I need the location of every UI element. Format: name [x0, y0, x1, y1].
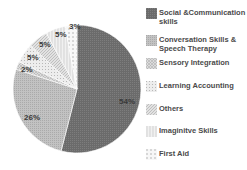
slice-label-social-communication: 54%	[119, 97, 135, 106]
legend-item-imaginitve-skills: Imaginitve Skills	[146, 126, 218, 137]
legend-swatch-icon	[146, 8, 157, 19]
legend-swatch-icon	[146, 104, 157, 115]
slice-label-learning-accounting: 5%	[27, 53, 39, 62]
legend-swatch-icon	[146, 149, 157, 160]
slice-label-others: 5%	[39, 40, 51, 49]
legend-item-social-communication: Social &Communicationskills	[146, 8, 245, 26]
legend-item-learning-accounting: Learning Accounting	[146, 81, 234, 92]
legend-label: Social &Communicationskills	[159, 8, 245, 26]
legend-item-sensory-integration: Sensory Integration	[146, 58, 229, 69]
legend-swatch-icon	[146, 81, 157, 92]
legend-label: Imaginitve Skills	[159, 126, 218, 135]
legend-swatch-icon	[146, 35, 157, 46]
legend-label: Others	[159, 104, 183, 113]
legend-label: Sensory Integration	[159, 58, 229, 67]
legend-label: First Aid	[159, 149, 189, 158]
pie-slices	[13, 25, 141, 153]
slice-label-sensory-integration: 2%	[21, 65, 33, 74]
legend-item-first-aid: First Aid	[146, 149, 189, 160]
legend-label: Learning Accounting	[159, 81, 234, 90]
legend-item-others: Others	[146, 104, 183, 115]
slice-label-conversation-speech: 26%	[24, 113, 40, 122]
legend-label: Conversation Skills &Speech Therapy	[159, 35, 236, 53]
slice-label-imaginitve-skills: 5%	[55, 30, 67, 39]
slice-label-first-aid: 3%	[69, 22, 81, 31]
legend-swatch-icon	[146, 58, 157, 69]
legend-swatch-icon	[146, 126, 157, 137]
legend-item-conversation-speech: Conversation Skills &Speech Therapy	[146, 35, 236, 53]
